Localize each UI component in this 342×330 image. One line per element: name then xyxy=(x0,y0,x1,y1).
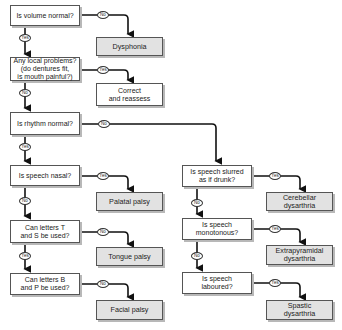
outcome-spastic-dysarthria: Spastic dysarthria xyxy=(266,300,333,320)
question-rhythm-normal: Is rhythm normal? xyxy=(10,112,80,135)
question-volume-normal: Is volume normal? xyxy=(10,5,80,26)
label-q1-yes: Yes xyxy=(19,34,31,42)
outcome-palatal-palsy: Palatal palsy xyxy=(96,192,163,211)
outcome-cerebellar-dysarthria: Cerebellar dysarthria xyxy=(266,192,333,211)
dysarthria-flowchart: Is volume normal? Any local problems? (d… xyxy=(0,0,342,330)
label-q8-no: No xyxy=(191,252,203,260)
label-q6-no: No xyxy=(97,280,109,288)
outcome-correct-reassess: Correct and reassess xyxy=(96,83,163,106)
label-q8-yes: Yes xyxy=(269,225,281,233)
outcome-extrapyramidal-dysarthria: Extrapyramidal dysarthria xyxy=(266,245,333,265)
label-q1-no: No xyxy=(97,11,109,19)
question-speech-nasal: Is speech nasal? xyxy=(10,165,80,186)
label-q4-no: No xyxy=(19,197,31,205)
label-q7-yes: Yes xyxy=(269,172,281,180)
label-q3-no: No xyxy=(98,120,110,128)
label-q2-no: No xyxy=(19,89,31,97)
outcome-dysphonia: Dysphonia xyxy=(96,37,163,56)
label-q9-yes: Yes xyxy=(269,279,281,287)
label-q5-yes: Yes xyxy=(19,252,31,260)
question-speech-monotonous: Is speech monotonous? xyxy=(182,218,252,240)
question-local-problems: Any local problems? (do dentures fit, is… xyxy=(10,57,80,81)
label-q3-yes: Yes xyxy=(19,143,31,151)
label-q5-no: No xyxy=(97,228,109,236)
outcome-tongue-palsy: Tongue palsy xyxy=(96,247,163,266)
label-q4-yes: Yes xyxy=(97,172,109,180)
outcome-facial-palsy: Facial palsy xyxy=(96,300,163,320)
label-q2-yes: Yes xyxy=(97,66,109,74)
question-letters-t-s: Can letters T and S be used? xyxy=(10,220,80,243)
question-letters-b-p: Can letters B and P be used? xyxy=(10,273,80,295)
question-speech-laboured: Is speech laboured? xyxy=(182,272,252,294)
label-q7-no: No xyxy=(191,199,203,207)
question-speech-slurred: Is speech slurred as if drunk? xyxy=(182,165,252,187)
